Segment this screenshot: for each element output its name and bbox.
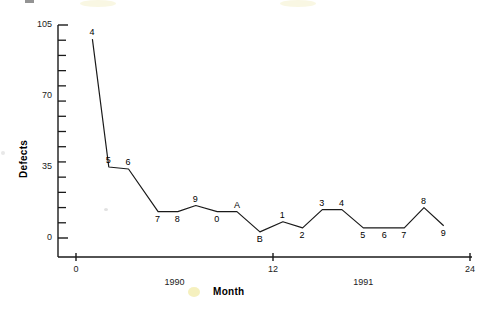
data-point-label: 7 — [401, 231, 406, 240]
data-point-label: 5 — [106, 156, 111, 165]
y-axis-ticks — [58, 25, 68, 238]
data-point-label: A — [234, 201, 240, 210]
x-tick-label: 0 — [56, 264, 96, 274]
plot-area — [0, 0, 501, 309]
data-point-label: 8 — [175, 215, 180, 224]
data-point-label: 4 — [89, 28, 94, 37]
y-tick-label: 105 — [0, 19, 52, 29]
x-tick-label: 24 — [450, 264, 490, 274]
data-point-label: 6 — [382, 231, 387, 240]
data-point-label: 9 — [193, 195, 198, 204]
data-point-label: 4 — [339, 199, 344, 208]
data-point-label: 3 — [319, 199, 324, 208]
data-point-label: B — [257, 235, 263, 244]
data-series-line — [92, 39, 443, 232]
defects-run-chart: Defects Month 03570105 01224 19901991 45… — [0, 0, 501, 309]
data-point-label: 8 — [421, 197, 426, 206]
data-point-label: 1 — [280, 211, 285, 220]
data-point-label: 0 — [214, 215, 219, 224]
y-tick-label: 35 — [0, 161, 52, 171]
y-tick-label: 0 — [0, 232, 52, 242]
x-tick-label: 12 — [253, 264, 293, 274]
data-point-label: 7 — [155, 215, 160, 224]
data-point-label: 6 — [126, 158, 131, 167]
data-point-label: 2 — [300, 231, 305, 240]
x-group-label: 1991 — [338, 277, 388, 287]
data-point-label: 5 — [360, 231, 365, 240]
x-group-label: 1990 — [150, 277, 200, 287]
data-point-label: 9 — [441, 229, 446, 238]
y-tick-label: 70 — [0, 90, 52, 100]
